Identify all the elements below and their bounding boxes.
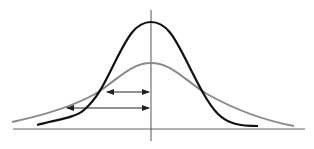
distribution-diagram: [0, 0, 314, 149]
narrow-distribution-curve: [37, 22, 258, 126]
wide-distribution-curve: [12, 63, 294, 126]
